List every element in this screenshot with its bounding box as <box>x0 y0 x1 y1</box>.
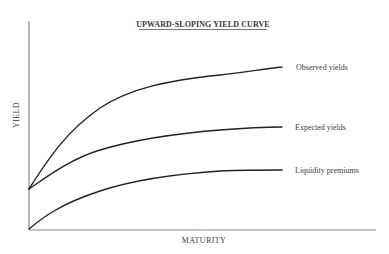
y-axis-label: YIELD <box>12 102 21 128</box>
yield-curve-chart: UPWARD-SLOPING YIELD CURVE YIELD MATURIT… <box>0 0 389 254</box>
expected-yields-label: Expected yields <box>295 123 346 132</box>
liquidity-premiums-label: Liquidity premiums <box>295 166 359 175</box>
liquidity-premiums-curve <box>29 170 282 229</box>
x-axis-label: MATURITY <box>182 236 227 245</box>
observed-yields-label: Observed yields <box>296 63 348 72</box>
chart-title: UPWARD-SLOPING YIELD CURVE <box>136 20 270 29</box>
